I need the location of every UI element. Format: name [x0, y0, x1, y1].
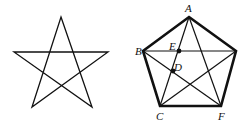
diagonal-right-C: [160, 51, 236, 106]
pentagram: [14, 17, 108, 107]
label-F: F: [217, 110, 225, 122]
label-A: A: [184, 2, 192, 14]
point-E: [177, 49, 182, 54]
label-C: C: [156, 110, 164, 122]
diagonal-AF: [189, 17, 221, 106]
geometry-figure: A B C D E F: [0, 0, 250, 126]
star-outline: [14, 17, 108, 107]
label-B: B: [135, 45, 142, 57]
diagonal-BF: [143, 51, 221, 106]
label-E: E: [168, 40, 176, 52]
label-D: D: [173, 61, 182, 73]
pentagon-figure: A B C D E F: [135, 2, 236, 122]
